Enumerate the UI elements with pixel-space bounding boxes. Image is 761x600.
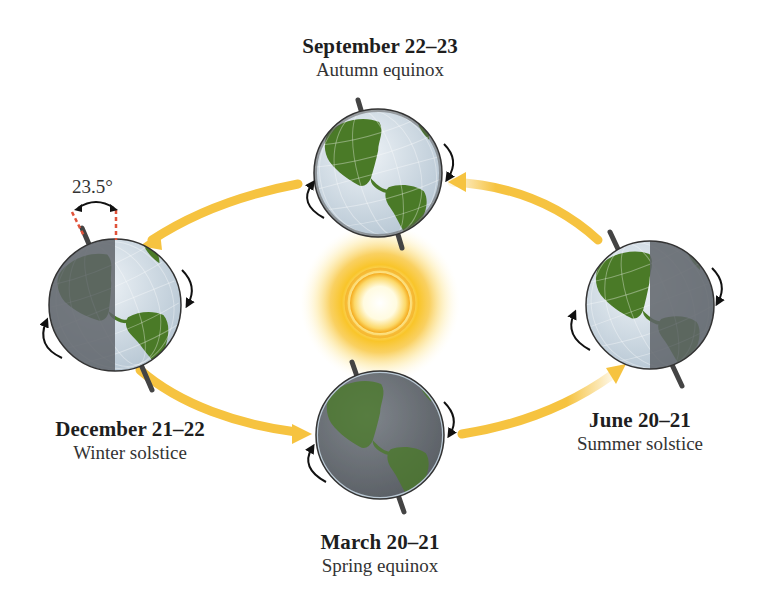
- rotation-arrow-icon: [182, 270, 192, 304]
- rotation-arrow-icon: [444, 402, 454, 434]
- seasons-diagram: [0, 0, 761, 600]
- date-december: December 21–22: [20, 417, 240, 441]
- rotation-arrow-icon: [444, 144, 453, 178]
- season-june: Summer solstice: [540, 432, 740, 455]
- tilt-angle-label: 23.5°: [72, 176, 113, 198]
- earth-globe-june: [568, 223, 732, 387]
- season-december: Winter solstice: [20, 441, 240, 464]
- label-december: December 21–22 Winter solstice: [20, 417, 240, 464]
- season-september: Autumn equinox: [280, 58, 480, 81]
- season-march: Spring equinox: [280, 554, 480, 577]
- label-march: March 20–21 Spring equinox: [280, 530, 480, 577]
- earth-globe-march: [308, 362, 454, 512]
- sun-icon: [300, 223, 460, 383]
- earth-globe-september: [300, 95, 457, 252]
- orbit-arrow-june-to-september: [452, 182, 598, 240]
- label-september: September 22–23 Autumn equinox: [280, 34, 480, 81]
- tilt-angle-indicator: [72, 202, 118, 240]
- date-september: September 22–23: [280, 34, 480, 58]
- label-june: June 20–21 Summer solstice: [540, 408, 740, 455]
- date-march: March 20–21: [280, 530, 480, 554]
- orbit-arrow-september-to-december: [152, 184, 298, 240]
- date-june: June 20–21: [540, 408, 740, 432]
